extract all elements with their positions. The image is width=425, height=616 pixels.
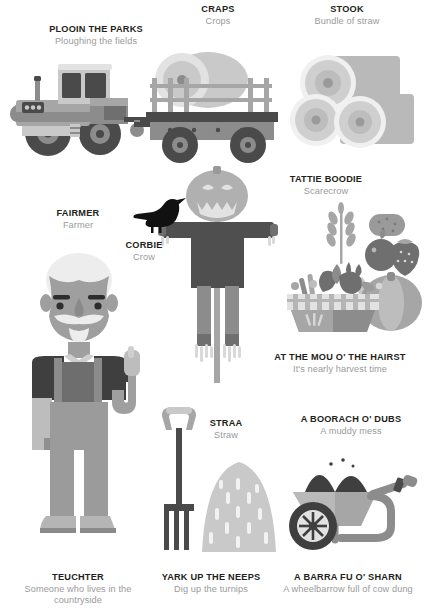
tractor-icon [4, 58, 149, 158]
desc-teuchter: Someone who lives in the countryside [12, 584, 144, 606]
term-tattie-boodie: TATTIE BOODIE [246, 174, 406, 185]
label-craps: CRAPS Crops [168, 4, 268, 27]
desc-yark-up-the-neeps: Dig up the turnips [150, 584, 272, 595]
desc-straa: Straw [186, 430, 266, 441]
desc-corbie: Crow [96, 252, 192, 263]
wheelbarrow-icon [291, 450, 419, 550]
infographic-canvas: PLOOIN THE PARKS Ploughing the fields CR… [0, 0, 425, 616]
crow-icon [131, 196, 187, 236]
desc-a-boorach-o-dubs: A muddy mess [281, 426, 421, 437]
desc-plooin-the-parks: Ploughing the fields [6, 36, 186, 47]
desc-fairmer: Farmer [18, 220, 138, 231]
label-at-the-mou-o-the-hairst: AT THE MOU O' THE HAIRST It's nearly har… [258, 352, 422, 375]
label-tattie-boodie: TATTIE BOODIE Scarecrow [246, 174, 406, 197]
farmer-icon [24, 250, 144, 550]
straw-pile-icon [200, 462, 278, 554]
term-craps: CRAPS [168, 4, 268, 15]
label-corbie: CORBIE Crow [96, 240, 192, 263]
desc-craps: Crops [168, 16, 268, 27]
term-plooin-the-parks: PLOOIN THE PARKS [6, 24, 186, 35]
label-plooin-the-parks: PLOOIN THE PARKS Ploughing the fields [6, 24, 186, 47]
hay-bales-icon [288, 50, 418, 150]
label-straa: STRAA Straw [186, 418, 266, 441]
desc-a-barra-fu-o-sharn: A wheelbarrow full of cow dung [280, 584, 416, 595]
term-teuchter: TEUCHTER [12, 572, 144, 583]
label-a-boorach-o-dubs: A BOORACH O' DUBS A muddy mess [281, 414, 421, 437]
term-at-the-mou-o-the-hairst: AT THE MOU O' THE HAIRST [258, 352, 422, 363]
label-a-barra-fu-o-sharn: A BARRA FU O' SHARN A wheelbarrow full o… [280, 572, 416, 595]
term-straa: STRAA [186, 418, 266, 429]
term-stook: STOOK [272, 4, 422, 15]
term-a-barra-fu-o-sharn: A BARRA FU O' SHARN [280, 572, 416, 583]
label-fairmer: FAIRMER Farmer [18, 208, 138, 231]
term-corbie: CORBIE [96, 240, 192, 251]
label-yark-up-the-neeps: YARK UP THE NEEPS Dig up the turnips [150, 572, 272, 595]
harvest-basket-icon [287, 202, 422, 337]
crop-trailer-icon [138, 50, 288, 158]
desc-tattie-boodie: Scarecrow [246, 186, 406, 197]
term-fairmer: FAIRMER [18, 208, 138, 219]
desc-at-the-mou-o-the-hairst: It's nearly harvest time [258, 364, 422, 375]
label-stook: STOOK Bundle of straw [272, 4, 422, 27]
term-yark-up-the-neeps: YARK UP THE NEEPS [150, 572, 272, 583]
term-a-boorach-o-dubs: A BOORACH O' DUBS [281, 414, 421, 425]
desc-stook: Bundle of straw [272, 16, 422, 27]
label-teuchter: TEUCHTER Someone who lives in the countr… [12, 572, 144, 606]
